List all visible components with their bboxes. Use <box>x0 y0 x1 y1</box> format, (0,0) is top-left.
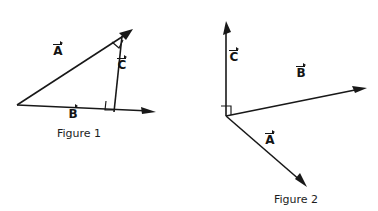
vector-arrow-accent-icon <box>265 130 275 135</box>
vector-a-arrowhead <box>295 173 307 187</box>
figure-2-caption: Figure 2 <box>274 194 318 205</box>
vector-c-arrowhead <box>223 21 231 35</box>
figure-2-vector-b <box>226 86 367 116</box>
vector-b-arrowhead <box>352 86 367 93</box>
figure-2-graphics <box>0 0 378 211</box>
figure-2-vector-a <box>226 116 307 187</box>
vector-b-shaft <box>226 89 360 116</box>
diagram-canvas: A B C Figure 1 <box>0 0 378 211</box>
vector-arrow-accent-icon <box>296 63 306 68</box>
figure-2-vector-a-label: A <box>265 130 275 146</box>
figure-2-group <box>221 21 367 187</box>
figure-2-vector-c-label: C <box>229 47 239 63</box>
figure-2-vector-c <box>223 21 231 116</box>
vector-arrow-accent-icon <box>229 47 239 52</box>
vector-a-shaft <box>226 116 301 181</box>
figure-2-vector-b-label: B <box>296 63 306 79</box>
